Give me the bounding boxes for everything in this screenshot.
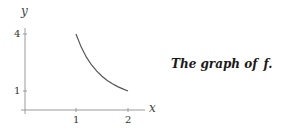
x-tick-label-1: 1 — [73, 114, 79, 125]
y-tick-label-4: 4 — [14, 28, 20, 39]
caption-text: The graph of — [171, 57, 257, 71]
x-axis-label: x — [149, 101, 156, 115]
graph-caption: The graph of f. — [171, 57, 273, 71]
y-axis-label: y — [21, 4, 28, 18]
x-tick-label-2: 2 — [125, 114, 131, 125]
y-tick-label-1: 1 — [14, 85, 20, 96]
function-curve — [76, 34, 128, 91]
caption-period: . — [268, 57, 272, 71]
graph-of-f — [0, 0, 160, 130]
